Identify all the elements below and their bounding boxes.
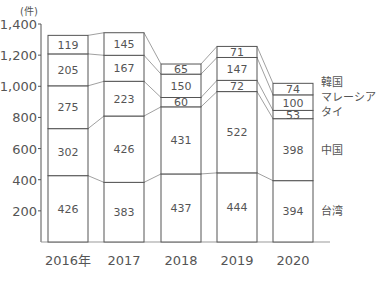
segment-value-label: 60 — [174, 96, 188, 109]
segment-value-label: 223 — [114, 93, 135, 106]
segment-value-label: 522 — [227, 126, 248, 139]
segment-value-label: 150 — [171, 80, 192, 93]
segment-value-label: 437 — [171, 202, 192, 215]
connector-line — [88, 54, 104, 55]
series-label: 中国 — [321, 144, 343, 157]
y-tick-label: 800 — [12, 110, 37, 125]
y-axis-unit-label: (件) — [20, 6, 38, 17]
segment-value-label: 302 — [58, 146, 79, 159]
y-tick-label: 1,200 — [0, 48, 37, 63]
segment-value-label: 394 — [283, 205, 304, 218]
segment-value-label: 119 — [58, 39, 79, 52]
series-label: タイ — [321, 106, 343, 119]
segment-value-label: 431 — [171, 134, 192, 147]
connector-line — [201, 92, 217, 107]
connector-line — [201, 80, 217, 97]
x-tick-label: 2018 — [164, 253, 197, 268]
connector-line — [257, 46, 273, 83]
segment-value-label: 398 — [283, 144, 304, 157]
y-tick-label: 400 — [12, 173, 37, 188]
connector-line — [201, 173, 217, 174]
segment-value-label: 74 — [286, 83, 300, 96]
segment-value-label: 383 — [114, 206, 135, 219]
connector-line — [201, 46, 217, 64]
connector-line — [144, 107, 161, 116]
segment-value-label: 71 — [230, 46, 244, 59]
segment-value-label: 100 — [283, 97, 304, 110]
connector-line — [88, 33, 104, 36]
series-label: 韓国 — [321, 76, 343, 89]
bar-stack: 426302275205119 — [48, 35, 88, 242]
bar-stack: 4374316015065 — [161, 63, 201, 242]
connector-line — [144, 33, 161, 64]
y-tick-label: 1,000 — [0, 79, 37, 94]
series-label: 台湾 — [321, 204, 343, 218]
bar-stack: 3943985310074 — [273, 83, 313, 242]
connector-line — [144, 174, 161, 182]
x-tick-label: 2019 — [220, 253, 253, 268]
segment-value-label: 444 — [227, 201, 248, 214]
series-labels: 台湾中国タイマレーシア韓国 — [321, 76, 376, 218]
connector-line — [257, 57, 273, 94]
connector-line — [88, 81, 104, 86]
segment-value-label: 275 — [58, 101, 79, 114]
segment-value-label: 145 — [114, 38, 135, 51]
segment-value-label: 147 — [227, 63, 248, 76]
bar-stack: 383426223167145 — [104, 33, 144, 242]
stacked-bar-chart: (件) 2004006008001,0001,2001,400 42630227… — [0, 0, 377, 282]
segment-value-label: 72 — [230, 80, 244, 93]
connector-line — [88, 176, 104, 183]
segment-value-label: 205 — [58, 64, 79, 77]
x-tick-label: 2020 — [276, 253, 309, 268]
bar-stack: 4445227214771 — [217, 46, 257, 242]
y-tick-label: 1,400 — [0, 17, 37, 32]
x-tick-label: 2016年 — [45, 253, 91, 268]
connector-line — [257, 173, 273, 181]
y-tick-label: 600 — [12, 142, 37, 157]
x-tick-label: 2017 — [107, 253, 140, 268]
connector-line — [201, 57, 217, 74]
bars: 4263022752051193834262231671454374316015… — [48, 33, 313, 242]
connector-line — [144, 55, 161, 74]
series-label: マレーシア — [321, 91, 376, 104]
y-tick-label: 200 — [12, 204, 37, 219]
segment-value-label: 167 — [114, 62, 135, 75]
connector-line — [144, 81, 161, 97]
x-axis-labels: 2016年2017201820192020 — [45, 253, 310, 268]
segment-value-label: 65 — [174, 63, 188, 76]
segment-value-label: 426 — [114, 143, 135, 156]
connector-line — [88, 116, 104, 129]
segment-value-label: 426 — [58, 203, 79, 216]
